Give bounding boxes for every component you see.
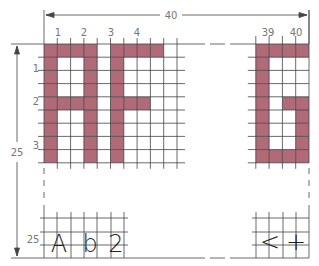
filled-cell	[296, 123, 309, 136]
sample-char: A	[51, 230, 67, 258]
filled-cell	[111, 150, 124, 163]
filled-cell	[44, 150, 57, 163]
filled-cell	[256, 57, 269, 70]
filled-cell	[84, 57, 97, 70]
filled-cell	[296, 97, 309, 110]
filled-cell	[111, 44, 124, 57]
filled-cell	[269, 150, 282, 163]
filled-cell	[57, 97, 70, 110]
filled-cell	[137, 44, 150, 57]
height-label: 25	[11, 147, 24, 158]
filled-cell	[124, 97, 137, 110]
filled-cell	[296, 44, 309, 57]
filled-cell	[111, 70, 124, 83]
filled-cell	[84, 44, 97, 57]
arrow-right-icon	[299, 13, 307, 18]
filled-cell	[296, 150, 309, 163]
filled-cell	[111, 84, 124, 97]
width-label: 40	[165, 10, 178, 21]
filled-cell	[44, 44, 57, 57]
sample-char: b	[82, 230, 97, 258]
filled-cell	[137, 97, 150, 110]
arrow-left-icon	[46, 13, 54, 18]
filled-cell	[111, 123, 124, 136]
filled-cell	[44, 136, 57, 149]
filled-cell	[84, 97, 97, 110]
filled-cell	[124, 44, 137, 57]
column-label: 2	[81, 27, 87, 38]
row-label: 2	[33, 96, 39, 107]
filled-cell	[84, 110, 97, 123]
filled-cell	[111, 97, 124, 110]
sample-char: +	[286, 228, 306, 256]
row-label: 1	[33, 63, 39, 74]
filled-cell	[44, 84, 57, 97]
filled-cell	[256, 123, 269, 136]
filled-cell	[256, 150, 269, 163]
filled-cell	[282, 150, 295, 163]
character-grid-diagram: 40 25 1 2 3 4 39 40 1 2 3 25 A b 2 < +	[0, 0, 319, 266]
filled-cell	[71, 44, 84, 57]
filled-cell	[57, 44, 70, 57]
column-label: 4	[134, 27, 140, 38]
filled-cell	[296, 110, 309, 123]
filled-cell	[44, 123, 57, 136]
sample-char: <	[260, 228, 280, 256]
sample-char: 2	[108, 230, 123, 258]
filled-cell	[282, 97, 295, 110]
filled-cell	[84, 150, 97, 163]
filled-cell	[296, 136, 309, 149]
filled-cell	[256, 136, 269, 149]
filled-cell	[111, 57, 124, 70]
row-label: 3	[33, 140, 39, 151]
filled-cell	[44, 57, 57, 70]
filled-cell	[44, 110, 57, 123]
arrow-up-icon	[15, 46, 20, 54]
column-label: 1	[55, 27, 61, 38]
filled-cell	[84, 84, 97, 97]
filled-cell	[84, 136, 97, 149]
filled-cell	[71, 97, 84, 110]
filled-cell	[84, 123, 97, 136]
filled-cell	[256, 110, 269, 123]
filled-cell	[269, 44, 282, 57]
row-label: 25	[27, 234, 40, 245]
filled-cell	[256, 70, 269, 83]
filled-cell	[282, 44, 295, 57]
arrow-down-icon	[15, 248, 20, 256]
filled-cell	[256, 97, 269, 110]
filled-cell	[44, 97, 57, 110]
column-label: 3	[108, 27, 114, 38]
filled-cell	[256, 84, 269, 97]
column-label: 39	[262, 27, 275, 38]
column-label: 40	[290, 27, 303, 38]
filled-cell	[44, 70, 57, 83]
filled-cell	[111, 110, 124, 123]
filled-cell	[84, 70, 97, 83]
filled-cell	[150, 44, 163, 57]
filled-cell	[256, 44, 269, 57]
filled-cell	[111, 136, 124, 149]
